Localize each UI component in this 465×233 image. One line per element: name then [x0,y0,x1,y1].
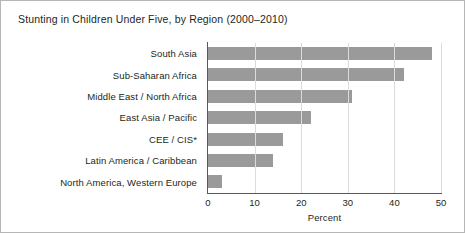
bar [208,175,222,188]
category-label-text: South Asia [151,48,197,59]
x-axis-spine [207,193,442,194]
x-tick-label: 10 [249,197,260,208]
x-tick-label: 30 [343,197,354,208]
bar-row [208,150,441,171]
category-label: Sub-Saharan Africa [5,64,203,85]
category-label-text: Middle East / North Africa [87,91,197,102]
bar-row [208,171,441,192]
bar-row [208,64,441,85]
category-label: East Asia / Pacific [5,107,203,128]
x-tick-label: 40 [389,197,400,208]
bar-row [208,86,441,107]
category-label-text: East Asia / Pacific [120,112,197,123]
chart-figure: Stunting in Children Under Five, by Regi… [0,0,465,233]
plot-area [208,43,441,193]
y-axis-spine [207,42,208,194]
category-label: CEE / CIS* [5,129,203,150]
category-label-text: Sub-Saharan Africa [113,70,197,81]
category-axis-labels: South AsiaSub-Saharan AfricaMiddle East … [5,43,203,193]
bar-row [208,43,441,64]
chart-title: Stunting in Children Under Five, by Regi… [18,13,288,25]
category-label-text: Latin America / Caribbean [85,155,197,166]
category-label-text: North America, Western Europe [60,177,197,188]
bar [208,47,432,60]
bar [208,90,352,103]
category-label: Latin America / Caribbean [5,150,203,171]
gridline [441,43,442,193]
bar [208,154,273,167]
category-label: South Asia [5,43,203,64]
bar [208,111,311,124]
category-label-text: CEE / CIS* [149,134,197,145]
bar-row [208,107,441,128]
x-tick-label: 0 [205,197,210,208]
bar [208,68,404,81]
bar-row [208,129,441,150]
bar [208,133,283,146]
x-axis-title: Percent [208,212,441,223]
category-label: Middle East / North Africa [5,86,203,107]
category-label: North America, Western Europe [5,171,203,192]
x-tick-label: 20 [296,197,307,208]
x-tick-label: 50 [436,197,447,208]
